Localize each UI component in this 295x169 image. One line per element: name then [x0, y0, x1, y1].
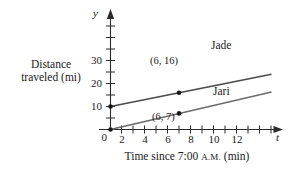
- x-tick-label-10: 10: [206, 133, 222, 145]
- distance-time-line-graph: y t 30 20 10 0 2 4 6 8 10 12 Distance tr…: [0, 0, 295, 169]
- x-tick-label-6: 6: [160, 133, 176, 145]
- jade-marked-point: [177, 90, 182, 95]
- x-tick-label-12: 12: [229, 133, 245, 145]
- y-axis-title: Distance traveled (mi): [11, 58, 91, 84]
- x-axis-title: Time since 7:00 A.M. (min): [97, 150, 277, 163]
- jari-marked-point: [177, 111, 182, 116]
- x-tick-label-4: 4: [137, 133, 153, 145]
- x-axis-symbol: t: [276, 131, 279, 143]
- point-label-jade: (6, 16): [150, 55, 178, 67]
- series-label-jade: Jade: [211, 39, 231, 52]
- jade-intercept-point: [108, 104, 113, 109]
- y-axis-symbol: y: [93, 7, 98, 19]
- y-axis-title-line1: Distance: [11, 58, 91, 71]
- y-tick-label-0: 0: [85, 131, 107, 143]
- jade-trend-line: [111, 74, 272, 106]
- x-axis-title-prefix: Time since 7:00: [125, 150, 202, 162]
- x-tick-label-8: 8: [183, 133, 199, 145]
- y-axis-title-line2: traveled (mi): [11, 71, 91, 84]
- y-tick-label-10: 10: [80, 100, 102, 112]
- series-label-jari: Jari: [213, 85, 230, 98]
- origin-point: [108, 127, 113, 132]
- y-axis-arrowhead: [107, 9, 114, 19]
- x-tick-label-2: 2: [114, 133, 130, 145]
- point-label-jari: (6, 7): [152, 111, 175, 123]
- jari-trend-line: [111, 92, 272, 130]
- x-axis-title-smallcaps: A.M.: [201, 152, 221, 162]
- x-axis-title-suffix: (min): [221, 150, 249, 162]
